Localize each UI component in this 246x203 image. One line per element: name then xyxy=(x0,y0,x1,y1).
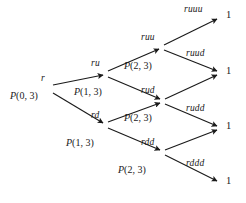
prob-label-rdd: P(2, 3) xyxy=(118,165,146,175)
prob-label-ruu: P(2, 3) xyxy=(124,61,152,71)
prob-value-rud: (2, 3) xyxy=(130,112,152,123)
edge-rdd-to-t3 xyxy=(165,130,217,150)
edge-rud-to-t2 xyxy=(165,75,217,99)
node-label-ruu: ruu xyxy=(141,33,155,43)
terminal-value-rudd: 1 xyxy=(226,121,231,132)
lattice-tree-figure: r ru rd ruu rud rdd P(0, 3) P(1, 3) P(1,… xyxy=(0,0,246,203)
prob-label-rd: P(1, 3) xyxy=(66,138,94,148)
edge-label-ruud: ruud xyxy=(186,49,205,59)
edge-label-ruuu: ruuu xyxy=(184,5,203,15)
prob-value-r: (0, 3) xyxy=(16,90,38,101)
prob-value-ru: (1, 3) xyxy=(80,86,102,97)
edge-r-to-ru xyxy=(53,75,103,85)
edge-label-rddd: rddd xyxy=(186,159,204,169)
terminal-value-ruuu: 1 xyxy=(226,10,231,21)
node-label-rud: rud xyxy=(141,86,155,96)
edge-label-rudd: rudd xyxy=(186,104,205,114)
prob-value-rd: (1, 3) xyxy=(72,137,94,148)
prob-value-rdd: (2, 3) xyxy=(124,164,146,175)
terminal-value-rddd: 1 xyxy=(226,176,231,187)
node-label-r: r xyxy=(41,74,45,84)
node-label-rd: rd xyxy=(91,111,100,121)
terminal-value-ruud: 1 xyxy=(226,66,231,77)
prob-label-r: P(0, 3) xyxy=(10,91,38,101)
node-label-ru: ru xyxy=(91,59,100,69)
prob-label-ru: P(1, 3) xyxy=(74,87,102,97)
edge-ruu-to-t1 xyxy=(164,19,217,45)
prob-value-ruu: (2, 3) xyxy=(130,60,152,71)
prob-label-rud: P(2, 3) xyxy=(124,113,152,123)
node-label-rdd: rdd xyxy=(141,138,154,148)
